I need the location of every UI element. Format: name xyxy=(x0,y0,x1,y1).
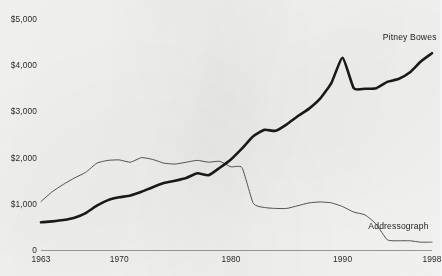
y-axis-tick-label: $1,000 xyxy=(11,199,37,209)
x-axis-tick-label: 1963 xyxy=(31,254,50,264)
y-axis-tick-label: $5,000 xyxy=(11,14,37,24)
series-label-addressograph: Addressograph xyxy=(368,221,428,231)
x-axis-tick-label: 1970 xyxy=(110,254,129,264)
y-axis-tick-label: $4,000 xyxy=(11,60,37,70)
y-axis-tick-label: $3,000 xyxy=(11,106,37,116)
line-series-pitney-bowes xyxy=(41,53,432,222)
x-axis-tick-label: 1998 xyxy=(422,254,441,264)
y-axis-tick-label: $2,000 xyxy=(11,153,37,163)
x-axis-tick-label: 1990 xyxy=(333,254,352,264)
series-label-pitney-bowes: Pitney Bowes xyxy=(383,32,437,42)
x-axis-tick-label: 1980 xyxy=(221,254,240,264)
